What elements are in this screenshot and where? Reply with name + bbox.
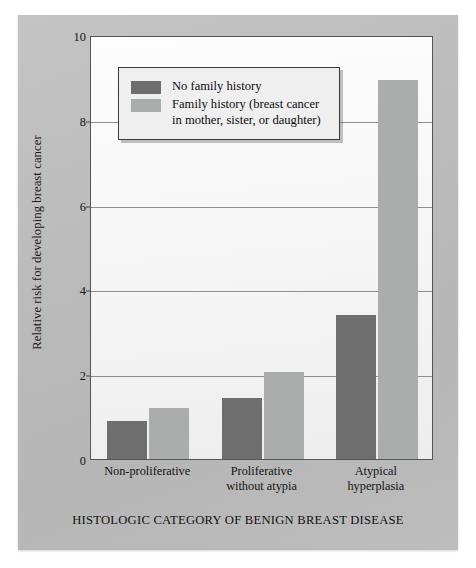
category-label-1-line1: without atypia [204,479,318,494]
category-label-0: Non-proliferative [90,464,204,479]
category-label-1: Proliferativewithout atypia [204,464,318,494]
legend-item-no-family-history: No family history [131,78,329,95]
category-label-0-line0: Non-proliferative [90,464,204,479]
y-tick-mark-4 [86,291,91,292]
y-axis-title: Relative risk for developing breast canc… [30,93,45,393]
legend: No family history Family history (breast… [118,67,340,140]
bar-no-family-history-2 [336,315,376,459]
chart-panel: Relative risk for developing breast canc… [18,15,458,550]
y-tick-mark-8 [86,121,91,122]
bar-family-history-2 [378,80,418,459]
category-label-2-line1: hyperplasia [319,479,433,494]
legend-item-family-history: Family history (breast cancer in mother,… [131,96,329,129]
legend-label-family-history-line2: in mother, sister, or daughter) [172,113,321,127]
dark-swatch-icon [131,81,161,94]
light-swatch-icon [131,99,161,112]
bar-family-history-1 [264,372,304,459]
category-label-2: Atypicalhyperplasia [319,464,433,494]
y-tick-label-10: 10 [74,30,86,45]
y-tick-mark-6 [86,206,91,207]
category-label-1-line0: Proliferative [204,464,318,479]
category-label-2-line0: Atypical [319,464,433,479]
bar-no-family-history-0 [107,421,147,459]
y-tick-mark-2 [86,376,91,377]
legend-label-no-family-history: No family history [172,78,262,95]
y-tick-label-0: 0 [80,454,86,469]
bar-no-family-history-1 [222,398,262,459]
x-axis-title: HISTOLOGIC CATEGORY OF BENIGN BREAST DIS… [18,513,458,528]
legend-label-family-history: Family history (breast cancer in mother,… [172,96,321,129]
bar-family-history-0 [149,408,189,459]
legend-label-family-history-line1: Family history (breast cancer [172,97,319,111]
